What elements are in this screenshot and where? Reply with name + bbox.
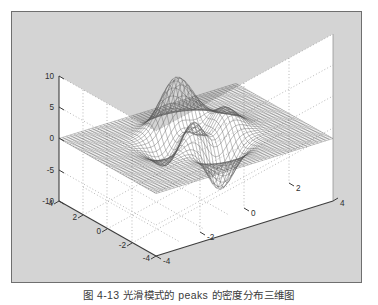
z-tick-label: 10 — [45, 72, 55, 81]
figure-caption: 图 4-13 光滑模式的 peaks 的密度分布三维图 — [0, 289, 378, 302]
z-tick-label: 5 — [49, 103, 54, 112]
z-tick-label: 0 — [49, 134, 54, 143]
y-tick-label: 2 — [296, 184, 301, 193]
page-root: 1050-5-10420-2-4-4-2024 图 4-13 光滑模式的 pea… — [0, 0, 378, 305]
x-tick-label: 0 — [96, 227, 101, 236]
y-tick-label: 4 — [340, 199, 345, 208]
matlab-figure-window: 1050-5-10420-2-4-4-2024 — [11, 11, 362, 283]
y-tick-label: -4 — [163, 257, 171, 266]
y-tick-label: 0 — [251, 209, 256, 218]
x-tick-label: 4 — [48, 199, 53, 208]
z-tick-label: -5 — [47, 166, 55, 175]
x-tick-label: 2 — [72, 213, 77, 222]
y-tick-label: -2 — [207, 233, 215, 242]
surface-plot-axes: 1050-5-10420-2-4-4-2024 — [12, 12, 361, 282]
x-tick-label: -2 — [119, 241, 127, 250]
x-tick-label: -4 — [143, 254, 151, 263]
